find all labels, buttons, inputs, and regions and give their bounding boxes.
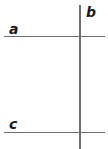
geometry-diagram: a b c [0, 0, 108, 149]
line-label-a: a [9, 22, 18, 36]
line-label-b: b [86, 5, 96, 19]
line-b [79, 5, 81, 149]
line-label-c: c [9, 117, 17, 131]
line-c [4, 132, 105, 133]
line-a [4, 36, 105, 37]
